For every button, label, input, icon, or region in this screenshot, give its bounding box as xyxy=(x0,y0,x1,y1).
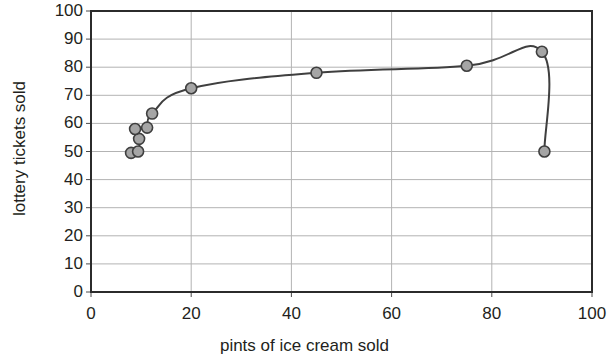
y-axis-tick-label: 90 xyxy=(37,30,83,47)
data-point-marker xyxy=(186,83,197,94)
y-axis-tick-label: 30 xyxy=(37,199,83,216)
y-axis-tick-label: 20 xyxy=(37,227,83,244)
y-axis-tick-label: 80 xyxy=(37,58,83,75)
x-axis-tick-label: 100 xyxy=(564,305,609,322)
horizontal-gridlines xyxy=(91,39,592,264)
y-axis-tick-label: 10 xyxy=(37,255,83,272)
x-axis-tick-label: 60 xyxy=(364,305,420,322)
x-axis-tick-label: 20 xyxy=(163,305,219,322)
y-axis-tick-label: 0 xyxy=(37,283,83,300)
y-axis-tick-label: 60 xyxy=(37,114,83,131)
x-axis-tick-label: 80 xyxy=(464,305,520,322)
data-point-marker xyxy=(311,67,322,78)
y-axis-tick-label: 100 xyxy=(37,2,83,19)
data-point-marker xyxy=(147,108,158,119)
axis-tick-marks xyxy=(86,11,592,297)
data-point-marker xyxy=(536,46,547,57)
series-line xyxy=(131,46,549,153)
y-axis-tick-label: 70 xyxy=(37,86,83,103)
x-axis-tick-label: 0 xyxy=(63,305,119,322)
x-axis-tick-label: 40 xyxy=(263,305,319,322)
scatter-chart-figure: 0102030405060708090100 020406080100 lott… xyxy=(0,0,609,363)
data-point-marker xyxy=(461,60,472,71)
x-axis-title: pints of ice cream sold xyxy=(0,337,609,354)
data-point-marker xyxy=(539,146,550,157)
data-point-marker xyxy=(133,146,144,157)
y-axis-tick-label: 40 xyxy=(37,171,83,188)
y-axis-title: lottery tickets sold xyxy=(11,54,28,244)
data-point-marker xyxy=(130,124,141,135)
data-point-marker xyxy=(142,122,153,133)
y-axis-title-container: lottery tickets sold xyxy=(0,0,34,300)
y-axis-tick-label: 50 xyxy=(37,143,83,160)
